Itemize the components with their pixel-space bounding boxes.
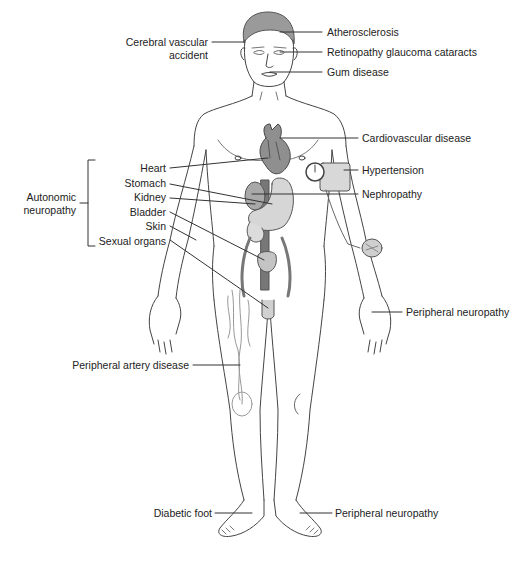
label-cardiovascular-disease: Cardiovascular disease (362, 132, 471, 144)
label-cerebral-vascular-line1: Cerebral vascular (112, 36, 208, 48)
label-atherosclerosis: Atherosclerosis (327, 26, 399, 38)
leg-veins-drawing (228, 290, 252, 416)
blood-pressure-cuff-drawing (306, 163, 382, 257)
label-cerebral-vascular-line2: accident (112, 49, 208, 61)
label-gum-disease: Gum disease (327, 66, 389, 78)
label-skin: Skin (96, 220, 166, 232)
label-peripheral-neuropathy-foot: Peripheral neuropathy (335, 507, 438, 519)
label-diabetic-foot: Diabetic foot (130, 507, 212, 519)
label-retinopathy: Retinopathy glaucoma cataracts (327, 46, 477, 58)
label-bladder: Bladder (96, 206, 166, 218)
diabetes-complications-figure: Atherosclerosis Cerebral vascular accide… (0, 0, 530, 572)
label-kidney: Kidney (96, 191, 166, 203)
label-autonomic-line2: neuropathy (10, 204, 76, 216)
label-hypertension: Hypertension (362, 164, 424, 176)
label-peripheral-artery-disease: Peripheral artery disease (40, 359, 189, 371)
label-autonomic-line1: Autonomic (10, 191, 76, 203)
label-heart: Heart (96, 162, 166, 174)
legs-drawing (214, 300, 324, 537)
label-stomach: Stomach (96, 177, 166, 189)
body-illustration (0, 0, 530, 572)
label-sexual-organs: Sexual organs (96, 235, 166, 247)
label-nephropathy: Nephropathy (362, 188, 422, 200)
head-drawing (241, 12, 298, 100)
organs-drawing (242, 124, 293, 319)
label-peripheral-neuropathy-hand: Peripheral neuropathy (406, 306, 509, 318)
